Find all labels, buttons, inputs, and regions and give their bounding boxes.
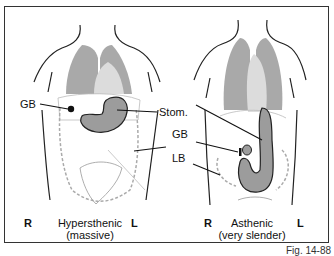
hypersthenic-stomach [68,97,127,132]
label-stomach: Stom. [159,106,188,118]
gallbladder-shape [243,145,252,155]
caption-hypersthenic-title: Hypersthenic [52,217,128,229]
label-lb: LB [172,152,185,164]
side-marker-l-right-panel: L [297,217,304,229]
caption-asthenic: Asthenic (very slender) [214,217,290,241]
caption-asthenic-title: Asthenic [214,217,290,229]
label-gb-left: GB [20,98,36,110]
asthenic-stomach [239,108,274,192]
hypersthenic-lungs [66,45,132,94]
hypersthenic-torso [34,25,160,200]
asthenic-lungs [224,38,283,112]
gallbladder-marker [68,106,74,112]
caption-asthenic-subtitle: (very slender) [214,229,290,241]
caption-hypersthenic: Hypersthenic (massive) [52,217,128,241]
label-gb-right: GB [172,128,188,140]
side-marker-r-right-panel: R [204,217,212,229]
side-marker-r-left-panel: R [24,217,32,229]
side-marker-l-left-panel: L [131,217,138,229]
figure-number: Fig. 14-88 [286,245,331,256]
caption-hypersthenic-subtitle: (massive) [52,229,128,241]
